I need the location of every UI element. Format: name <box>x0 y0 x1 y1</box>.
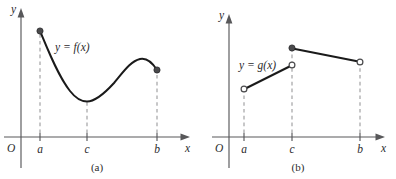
panel-b-tick-label-c: c <box>289 143 294 155</box>
panel-b-endpoint-marker-a <box>241 86 247 92</box>
panel-a-caption: (a) <box>91 161 104 174</box>
panel-a-tick-label-b: b <box>154 143 160 155</box>
panel-a: y x O a c b <box>4 3 191 174</box>
panel-a-x-axis-label: x <box>184 142 191 154</box>
panel-b-origin-label: O <box>215 142 224 154</box>
figure-container: y x O a c b <box>0 0 396 179</box>
panel-b-y-axis-label: y <box>218 9 225 22</box>
panel-b-y-axis <box>226 14 233 168</box>
panel-a-y-axis-label: y <box>10 3 17 16</box>
panel-b-x-axis <box>212 134 385 141</box>
panel-a-endpoint-marker-a <box>37 28 43 34</box>
panel-a-tick-label-a: a <box>37 143 43 155</box>
panel-a-function-label: y = f(x) <box>54 41 90 54</box>
panel-a-x-axis <box>4 134 190 141</box>
panel-b-tick-label-a: a <box>241 143 247 155</box>
panel-a-endpoint-marker-b <box>154 67 160 73</box>
panel-b-endpoint-marker-c-filled <box>289 45 295 51</box>
panel-b-x-axis-label: x <box>380 142 387 154</box>
panel-b-tick-label-b: b <box>357 143 363 155</box>
panel-b: y x O a c b <box>212 9 387 174</box>
panel-a-tick-label-c: c <box>84 143 89 155</box>
segment-g-right <box>293 49 359 62</box>
calculus-figure: y x O a c b <box>0 0 396 179</box>
panel-a-y-axis <box>18 8 25 168</box>
panel-b-function-label: y = g(x) <box>238 59 276 72</box>
panel-a-origin-label: O <box>7 142 16 154</box>
panel-b-caption: (b) <box>292 161 305 174</box>
panel-b-endpoint-marker-c-open <box>289 62 295 68</box>
panel-b-endpoint-marker-b <box>357 59 363 65</box>
